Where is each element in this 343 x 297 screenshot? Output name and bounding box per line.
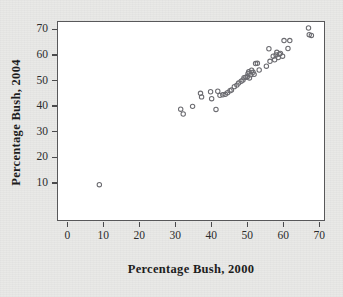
x-tick-50	[247, 222, 249, 227]
y-tick-20	[52, 157, 57, 159]
x-ticklabel-0: 0	[52, 230, 82, 241]
y-ticklabel-20: 20	[20, 151, 48, 162]
x-tick-70	[319, 222, 321, 227]
y-ticklabel-30: 30	[20, 126, 48, 137]
y-tick-10	[52, 182, 57, 184]
x-ticklabel-40: 40	[196, 230, 226, 241]
x-tick-40	[211, 222, 213, 227]
y-axis-label: Percentage Bush, 2004	[9, 23, 24, 223]
x-tick-0	[67, 222, 69, 227]
x-tick-20	[139, 222, 141, 227]
x-axis-label: Percentage Bush, 2000	[57, 262, 325, 277]
y-tick-60	[52, 54, 57, 56]
y-tick-70	[52, 29, 57, 31]
x-ticklabel-50: 50	[232, 230, 262, 241]
x-tick-60	[283, 222, 285, 227]
plot-area-frame	[57, 21, 325, 221]
x-ticklabel-30: 30	[160, 230, 190, 241]
y-ticklabel-10: 10	[20, 177, 48, 188]
x-tick-30	[175, 222, 177, 227]
y-tick-50	[52, 80, 57, 82]
scatter-plot-figure: 10203040506070 010203040506070 Percentag…	[0, 0, 343, 297]
y-ticklabel-60: 60	[20, 49, 48, 60]
x-ticklabel-60: 60	[268, 230, 298, 241]
x-ticklabel-70: 70	[304, 230, 334, 241]
x-ticklabel-20: 20	[124, 230, 154, 241]
x-ticklabel-10: 10	[88, 230, 118, 241]
x-tick-10	[103, 222, 105, 227]
y-tick-40	[52, 105, 57, 107]
y-ticklabel-50: 50	[20, 75, 48, 86]
y-tick-30	[52, 131, 57, 133]
y-ticklabel-70: 70	[20, 23, 48, 34]
y-ticklabel-40: 40	[20, 100, 48, 111]
